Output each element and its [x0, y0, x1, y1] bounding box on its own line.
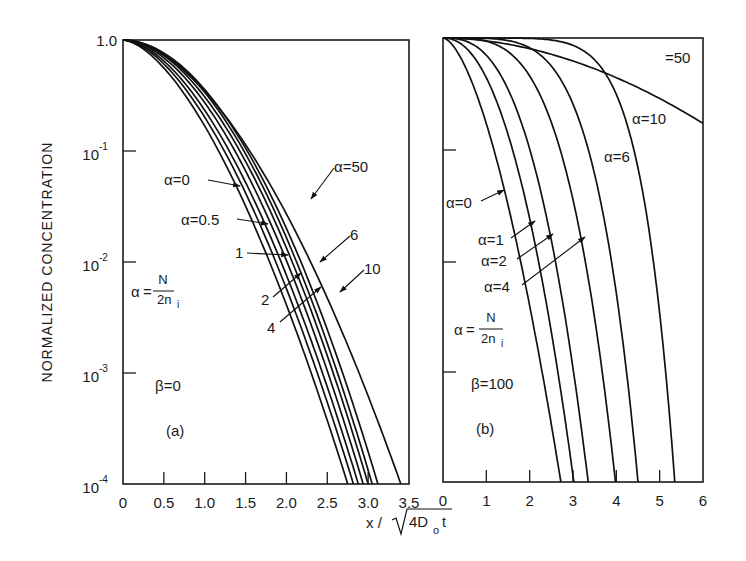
svg-text:-1: -1 — [99, 141, 108, 152]
label-a-alpha50: α=50 — [334, 158, 368, 175]
label-a-alpha6: 6 — [350, 226, 358, 243]
curve-2 — [443, 38, 588, 482]
x-tick-label: 2.0 — [276, 494, 297, 511]
label-a-alpha10: 10 — [364, 260, 381, 277]
label-b-alpha10: α=10 — [632, 110, 666, 127]
curve-0 — [123, 40, 348, 484]
svg-text:10: 10 — [82, 479, 99, 496]
x-tick-label: 0 — [119, 494, 127, 511]
svg-text:10: 10 — [82, 368, 99, 385]
svg-text:2n: 2n — [157, 292, 171, 307]
svg-text:i: i — [501, 338, 503, 349]
svg-text:α: α — [131, 283, 140, 300]
curve-10 — [443, 38, 675, 482]
curve-4 — [443, 38, 616, 482]
panel-b-tag: (b) — [476, 420, 494, 437]
panel-a-tag: (a) — [166, 422, 184, 439]
svg-text:=: = — [466, 321, 475, 338]
curve-6 — [443, 38, 638, 482]
y-tick-1e-1: 10 -1 — [82, 141, 108, 163]
curve-1 — [123, 40, 358, 484]
label-b-alpha4: α=4 — [484, 278, 510, 295]
x-tick-label: 1.5 — [235, 494, 256, 511]
diffusion-profile-figure: NORMALIZED CONCENTRATION 1.0 10 -1 10 -2… — [0, 0, 746, 561]
panel-a-beta: β=0 — [155, 377, 181, 394]
label-a-alpha0: α=0 — [164, 171, 190, 188]
x-tick-label: 4 — [612, 492, 620, 509]
x-tick-label: 5 — [655, 492, 663, 509]
svg-text:N: N — [486, 310, 495, 325]
curve-10 — [123, 40, 378, 484]
svg-text:10: 10 — [82, 146, 99, 163]
y-axis-label: NORMALIZED CONCENTRATION — [39, 142, 55, 383]
x-axis-label: x / 4D o t — [366, 509, 452, 536]
label-b-alpha6: α=6 — [604, 148, 630, 165]
panel-a-alpha-definition: α = N 2n i — [131, 272, 179, 310]
curve-05 — [123, 40, 353, 484]
svg-text:α: α — [454, 321, 463, 338]
x-tick-label: 0.5 — [153, 494, 174, 511]
x-tick-label: 3 — [569, 492, 577, 509]
svg-text:N: N — [158, 272, 167, 287]
y-tick-labels: 1.0 10 -1 10 -2 10 -3 10 -4 — [82, 32, 117, 496]
svg-text:i: i — [177, 299, 179, 310]
panel-b-y-ticks — [443, 150, 456, 372]
label-a-alpha1: 1 — [235, 244, 243, 261]
label-a-alpha2: 2 — [261, 291, 269, 308]
label-a-alpha4: 4 — [267, 319, 275, 336]
svg-text:2n: 2n — [481, 331, 495, 346]
panel-a-curve-labels: α=0 α=0.5 1 2 4 6 10 α=50 — [164, 158, 381, 336]
svg-text:t: t — [442, 514, 446, 530]
x-tick-label: 1 — [482, 492, 490, 509]
y-tick-1e-2: 10 -2 — [82, 252, 108, 274]
curve-6 — [123, 40, 372, 484]
label-b-alpha0: α=0 — [446, 194, 472, 211]
panel-a-x-tick-labels: 00.51.01.52.02.53.03.5 — [119, 494, 420, 511]
x-tick-label: 2.5 — [317, 494, 338, 511]
y-tick-1e-3: 10 -3 — [82, 363, 108, 385]
y-tick-1: 1.0 — [96, 32, 117, 49]
x-tick-label: 1.0 — [194, 494, 215, 511]
svg-text:-2: -2 — [99, 252, 108, 263]
svg-text:-3: -3 — [99, 363, 108, 374]
svg-text:10: 10 — [82, 257, 99, 274]
label-b-alpha1: α=1 — [478, 231, 504, 248]
curve-4 — [123, 40, 368, 484]
panel-a-curves — [123, 40, 401, 484]
label-a-alpha05: α=0.5 — [181, 211, 219, 228]
x-tick-label: 6 — [699, 492, 707, 509]
svg-text:4D: 4D — [409, 513, 428, 530]
curve-50 — [123, 40, 401, 484]
y-tick-1e-4: 10 -4 — [82, 474, 108, 496]
panel-b: 0123456 =50 α=10 α=6 α=0 α=1 α=2 α=4 α =… — [439, 38, 707, 509]
label-b-alpha2: α=2 — [481, 252, 507, 269]
panel-b-curve-labels: =50 α=10 α=6 α=0 α=1 α=2 α=4 — [446, 49, 690, 295]
panel-a-y-ticks — [123, 151, 136, 373]
panel-a-x-ticks — [164, 472, 368, 484]
panel-b-beta: β=100 — [471, 375, 513, 392]
label-b-alpha50: =50 — [665, 49, 690, 66]
x-tick-label: 0 — [439, 492, 447, 509]
svg-text:=: = — [143, 283, 152, 300]
x-tick-label: 3.0 — [358, 494, 379, 511]
svg-text:x /: x / — [366, 514, 383, 531]
x-tick-label: 2 — [525, 492, 533, 509]
panel-b-x-tick-labels: 0123456 — [439, 492, 707, 509]
panel-a: 00.51.01.52.02.53.03.5 α=0 α=0.5 1 2 4 6… — [119, 40, 420, 511]
svg-text:-4: -4 — [99, 474, 108, 485]
panel-b-alpha-definition: α = N 2n i — [454, 310, 503, 349]
svg-text:o: o — [433, 524, 439, 536]
